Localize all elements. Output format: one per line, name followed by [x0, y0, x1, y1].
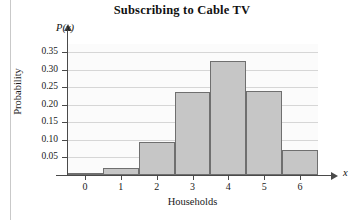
y-axis-tick-label: 0.10: [28, 134, 58, 144]
y-axis-tick-mark: [62, 157, 68, 158]
x-axis-tick-mark: [121, 175, 122, 180]
x-axis-tick-label: 1: [111, 181, 131, 192]
y-axis-tick-label: 0.35: [28, 46, 58, 56]
x-axis-tick-label: 5: [254, 181, 274, 192]
x-axis-tick-mark: [300, 175, 301, 180]
y-axis-tick-label: 0.20: [28, 99, 58, 109]
x-axis-tick-label: 2: [147, 181, 167, 192]
y-axis-title: Probability: [12, 47, 23, 137]
y-axis-tick-mark: [62, 87, 68, 88]
bar: [246, 91, 282, 175]
y-axis-tick-label: 0.05: [28, 151, 58, 161]
y-axis-symbol-label: P(x): [56, 22, 74, 33]
x-axis-tick-label: 3: [183, 181, 203, 192]
x-axis-line: [56, 175, 332, 176]
x-axis-title: Households: [67, 196, 318, 207]
bar: [139, 142, 175, 175]
x-axis-symbol-label: x: [343, 167, 348, 178]
x-axis-tick-label: 0: [75, 181, 95, 192]
y-axis-tick-mark: [62, 140, 68, 141]
x-axis-tick-mark: [85, 175, 86, 180]
bar: [103, 168, 139, 175]
y-axis-tick-mark: [62, 122, 68, 123]
y-axis-tick-mark: [62, 52, 68, 53]
figure-container: Subscribing to Cable TV 0.350.300.250.20…: [0, 0, 364, 220]
y-axis-tick-label: 0.15: [28, 116, 58, 126]
y-axis-tick-label: 0.25: [28, 81, 58, 91]
y-axis-tick-mark: [62, 105, 68, 106]
x-axis-tick-mark: [193, 175, 194, 180]
bar-series: [67, 44, 318, 175]
x-axis-tick-mark: [264, 175, 265, 180]
x-axis-tick-label: 6: [290, 181, 310, 192]
x-axis-tick-mark: [228, 175, 229, 180]
bar: [282, 150, 318, 175]
y-axis-tick-label: 0.30: [28, 64, 58, 74]
y-axis-tick-mark: [62, 70, 68, 71]
x-axis-tick-mark: [157, 175, 158, 180]
x-axis-arrowhead: [331, 172, 338, 180]
y-axis-tick-labels: 0.350.300.250.200.150.100.05: [28, 0, 58, 220]
x-axis-tick-label: 4: [218, 181, 238, 192]
bar: [210, 61, 246, 175]
bar: [175, 92, 211, 175]
